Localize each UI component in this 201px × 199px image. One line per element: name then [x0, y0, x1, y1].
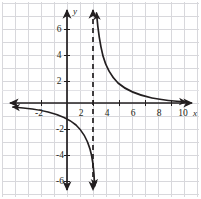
y-tick-label: -2: [56, 124, 64, 134]
x-tick-label: 8: [157, 108, 162, 118]
x-axis-label: x: [192, 108, 197, 118]
x-tick-label: 6: [131, 108, 136, 118]
y-tick-label: -4: [56, 150, 64, 160]
y-axis-label: y: [72, 6, 77, 16]
y-tick-label: 6: [57, 24, 62, 34]
graph-figure: -2 2 4 6 8 10 x 6 4 2 -2 -4 -6 y: [0, 0, 201, 199]
x-tick-label: 4: [105, 108, 110, 118]
x-tick-label: 10: [178, 108, 188, 118]
x-tick-label: 2: [79, 108, 84, 118]
coordinate-plane-graph: -2 2 4 6 8 10 x 6 4 2 -2 -4 -6 y: [0, 0, 201, 199]
y-tick-label: 2: [57, 76, 62, 86]
y-tick-label: 4: [57, 50, 62, 60]
y-tick-label: -6: [56, 176, 64, 186]
